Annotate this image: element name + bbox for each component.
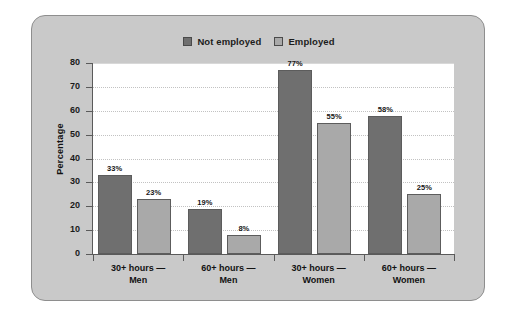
bar[interactable] (227, 235, 261, 254)
chart-legend: Not employed Employed (32, 36, 486, 47)
chart-panel: Not employed Employed Percentage 0102030… (31, 15, 485, 301)
x-category-label-line-1: Women (364, 275, 454, 287)
y-tick-label-60: 60 (46, 105, 80, 115)
legend-swatch-employed (274, 37, 283, 46)
x-category-label-line-0: 60+ hours — (183, 263, 273, 275)
bar-value-label: 8% (227, 224, 261, 233)
legend-swatch-not-employed (183, 37, 192, 46)
bar[interactable] (188, 209, 222, 254)
x-category-label-line-0: 30+ hours — (93, 263, 183, 275)
x-category-label: 30+ hours —Women (274, 263, 364, 286)
bar-value-label: 58% (368, 105, 402, 114)
bar[interactable] (407, 194, 441, 254)
y-tick-label-80: 80 (46, 57, 80, 67)
y-tick-label-20: 20 (46, 200, 80, 210)
figure-root: Not employed Employed Percentage 0102030… (0, 0, 516, 316)
x-category-label-line-0: 30+ hours — (274, 263, 364, 275)
x-category-label-line-1: Women (274, 275, 364, 287)
bar[interactable] (98, 175, 132, 254)
x-tick-1 (183, 254, 184, 261)
x-category-label: 60+ hours —Men (183, 263, 273, 286)
x-tick-3 (364, 254, 365, 261)
legend-entry-not-employed[interactable]: Not employed (183, 36, 261, 47)
legend-label-not-employed: Not employed (197, 36, 261, 47)
x-category-label-line-0: 60+ hours — (364, 263, 454, 275)
legend-entry-employed[interactable]: Employed (274, 36, 334, 47)
x-category-label: 60+ hours —Women (364, 263, 454, 286)
bar-value-label: 25% (407, 183, 441, 192)
bar[interactable] (317, 123, 351, 254)
y-tick-label-10: 10 (46, 224, 80, 234)
x-category-label: 30+ hours —Men (93, 263, 183, 286)
gridline-70 (93, 87, 454, 88)
x-tick-4 (454, 254, 455, 261)
bar[interactable] (137, 199, 171, 254)
x-category-label-line-1: Men (183, 275, 273, 287)
x-category-label-line-1: Men (93, 275, 183, 287)
plot-area: 33%23%19%8%77%55%58%25% (93, 63, 454, 254)
y-tick-label-0: 0 (46, 248, 80, 258)
bar[interactable] (278, 70, 312, 254)
bar[interactable] (368, 116, 402, 254)
bar-value-label: 33% (98, 164, 132, 173)
bar-value-label: 55% (317, 112, 351, 121)
y-tick-label-50: 50 (46, 129, 80, 139)
bar-value-label: 23% (137, 188, 171, 197)
x-tick-0 (93, 254, 94, 261)
y-tick-label-70: 70 (46, 81, 80, 91)
x-tick-2 (274, 254, 275, 261)
gridline-80 (93, 63, 454, 64)
y-tick-label-30: 30 (46, 176, 80, 186)
legend-label-employed: Employed (288, 36, 334, 47)
bar-value-label: 19% (188, 198, 222, 207)
bar-value-label: 77% (278, 59, 312, 68)
y-tick-label-40: 40 (46, 153, 80, 163)
